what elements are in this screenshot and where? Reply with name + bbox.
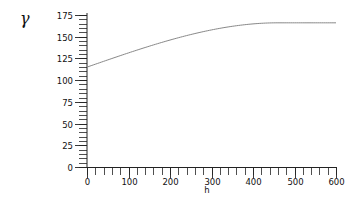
y-tick-label: 0 [68, 163, 73, 173]
x-axis: 0100200300400500600 [85, 167, 345, 187]
y-axis: 0255075100125150175 [57, 11, 87, 173]
y-tick-label: 50 [62, 120, 73, 130]
variogram-chart: γ 0255075100125150175 010020030040050060… [0, 0, 364, 212]
x-tick-label: 200 [162, 177, 178, 187]
y-tick-label: 125 [57, 54, 73, 64]
y-tick-label: 175 [57, 11, 73, 21]
y-tick-label: 100 [57, 76, 73, 86]
x-tick-label: 500 [287, 177, 303, 187]
y-tick-label: 75 [62, 98, 73, 108]
x-tick-label: 400 [245, 177, 261, 187]
x-axis-label: h [204, 185, 209, 195]
x-tick-label: 100 [121, 177, 137, 187]
x-tick-label: 0 [85, 177, 90, 187]
variogram-line [87, 23, 336, 67]
y-tick-label: 150 [57, 33, 73, 43]
y-tick-label: 25 [62, 141, 73, 151]
y-axis-label: γ [20, 9, 30, 28]
plot-area [87, 23, 336, 67]
x-tick-label: 600 [328, 177, 344, 187]
